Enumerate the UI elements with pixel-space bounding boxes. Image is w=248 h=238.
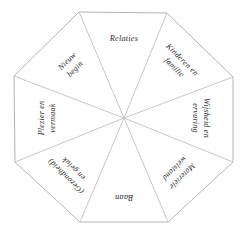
segment-plezier-en-vermaak-label-line1: Plezier en — [37, 101, 46, 137]
segment-wijsheid-en-ervaring-label-line1: Wijsheid en — [202, 98, 211, 138]
segment-relaties: Relaties — [109, 34, 138, 43]
segment-baan-label: Baan — [115, 193, 133, 202]
segment-plezier-en-vermaak-label-line2: vermaak — [48, 103, 57, 132]
segment-relaties-label: Relaties — [109, 34, 138, 43]
life-wheel-canvas: Relaties Kinderen en familie Wijsheid en… — [0, 0, 248, 238]
segment-wijsheid-en-ervaring-label-line2: ervaring — [191, 103, 200, 133]
life-wheel-diagram: Relaties Kinderen en familie Wijsheid en… — [0, 0, 248, 238]
segment-baan: Baan — [115, 193, 133, 202]
